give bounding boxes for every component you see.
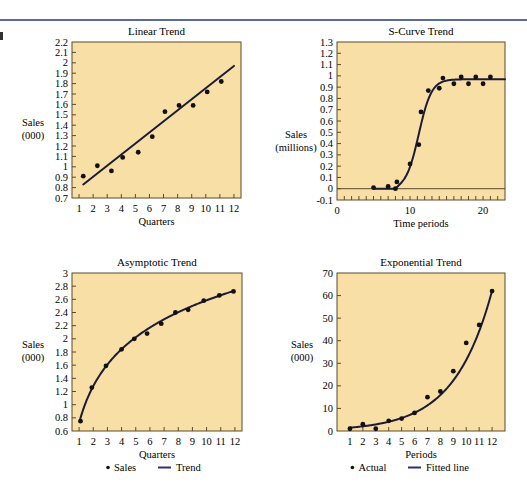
data-point bbox=[173, 310, 178, 315]
x-tick-label: 10 bbox=[201, 436, 212, 447]
y-tick-label: 1 bbox=[63, 161, 68, 172]
data-point bbox=[360, 422, 365, 427]
y-tick-label: 70 bbox=[323, 268, 334, 279]
y-tick-label: 1 bbox=[63, 399, 68, 410]
x-tick-label: 7 bbox=[425, 436, 430, 447]
data-point bbox=[441, 76, 446, 81]
y-tick-label: 1.9 bbox=[55, 68, 68, 79]
y-tick-label: 1 bbox=[328, 70, 333, 81]
y-tick-label: 50 bbox=[323, 313, 334, 324]
x-tick-label: 3 bbox=[105, 203, 110, 214]
x-tick-label: 12 bbox=[229, 203, 240, 214]
y-tick-label: 40 bbox=[323, 335, 334, 346]
data-point bbox=[437, 86, 442, 91]
x-tick-label: 0 bbox=[334, 205, 339, 216]
y-tick-label: 0.9 bbox=[320, 82, 333, 93]
x-tick-label: 12 bbox=[487, 436, 498, 447]
x-tick-label: 5 bbox=[133, 203, 138, 214]
x-tick-label: 2 bbox=[91, 436, 96, 447]
data-point bbox=[464, 341, 469, 346]
y-tick-label: 2 bbox=[63, 333, 68, 344]
data-point bbox=[473, 75, 478, 80]
y-axis-label: Sales bbox=[22, 117, 44, 128]
y-tick-label: 1.3 bbox=[55, 130, 68, 141]
data-point bbox=[119, 347, 124, 352]
y-tick-label: 1.4 bbox=[55, 120, 69, 131]
x-tick-label: 20 bbox=[478, 205, 489, 216]
x-tick-label: 5 bbox=[133, 436, 138, 447]
x-tick-label: 4 bbox=[386, 436, 392, 447]
x-tick-label: 2 bbox=[360, 436, 365, 447]
y-tick-label: 2.8 bbox=[55, 281, 68, 292]
y-tick-label: 2 bbox=[63, 57, 68, 68]
y-tick-label: 3 bbox=[63, 268, 68, 279]
x-tick-label: 11 bbox=[215, 203, 225, 214]
data-point bbox=[217, 293, 222, 298]
x-tick-label: 4 bbox=[119, 436, 125, 447]
data-point bbox=[416, 142, 421, 147]
x-tick-label: 9 bbox=[451, 436, 456, 447]
data-point bbox=[150, 134, 155, 139]
data-point bbox=[348, 426, 353, 431]
data-point bbox=[438, 389, 443, 394]
x-tick-label: 8 bbox=[176, 436, 181, 447]
y-tick-label: 1.8 bbox=[55, 78, 68, 89]
x-tick-label: 12 bbox=[230, 436, 241, 447]
y-tick-label: 0.7 bbox=[320, 104, 333, 115]
y-axis-label: (000) bbox=[291, 352, 314, 364]
legend-dot-icon bbox=[106, 466, 110, 470]
y-tick-label: 1.8 bbox=[55, 347, 68, 358]
data-point bbox=[201, 298, 206, 303]
y-tick-label: 0.6 bbox=[320, 116, 333, 127]
y-tick-label: 0 bbox=[328, 426, 333, 437]
chart-title: S-Curve Trend bbox=[388, 25, 454, 37]
legend-dot-icon bbox=[351, 466, 355, 470]
y-tick-label: 0.4 bbox=[320, 138, 334, 149]
y-tick-label: -0.1 bbox=[316, 195, 333, 206]
y-tick-label: 2.2 bbox=[55, 320, 68, 331]
y-tick-label: 0.7 bbox=[55, 193, 68, 204]
x-tick-label: 7 bbox=[161, 436, 166, 447]
x-tick-label: 10 bbox=[405, 205, 416, 216]
x-tick-label: 6 bbox=[147, 436, 152, 447]
data-point bbox=[386, 184, 391, 189]
data-point bbox=[95, 163, 100, 168]
x-tick-label: 9 bbox=[189, 203, 194, 214]
x-tick-label: 11 bbox=[474, 436, 484, 447]
y-tick-label: 20 bbox=[323, 380, 334, 391]
x-tick-label: 9 bbox=[190, 436, 195, 447]
data-point bbox=[81, 174, 86, 179]
trend-charts-figure: Linear Trend0.70.80.911.11.21.31.41.51.6… bbox=[0, 0, 527, 496]
x-tick-label: 2 bbox=[91, 203, 96, 214]
legend: SalesTrend bbox=[106, 462, 201, 473]
data-point bbox=[109, 169, 114, 174]
data-point bbox=[177, 103, 182, 108]
y-tick-label: 0.3 bbox=[320, 149, 333, 160]
data-point bbox=[120, 155, 125, 160]
data-point bbox=[408, 161, 413, 166]
y-axis-label: (000) bbox=[22, 130, 45, 142]
x-tick-label: 3 bbox=[105, 436, 110, 447]
y-tick-label: 1.2 bbox=[55, 386, 68, 397]
y-tick-label: 0.6 bbox=[55, 426, 68, 437]
x-tick-label: 6 bbox=[147, 203, 152, 214]
data-point bbox=[393, 186, 398, 191]
data-point bbox=[386, 418, 391, 423]
data-point bbox=[477, 323, 482, 328]
legend-label: Actual bbox=[358, 462, 386, 473]
y-tick-label: 1.6 bbox=[55, 360, 68, 371]
data-point bbox=[205, 90, 210, 95]
x-tick-label: 8 bbox=[438, 436, 443, 447]
legend-label: Sales bbox=[114, 462, 136, 473]
y-tick-label: 2.2 bbox=[55, 37, 68, 48]
data-point bbox=[399, 416, 404, 421]
y-axis-label: (000) bbox=[22, 352, 45, 364]
data-point bbox=[231, 289, 236, 294]
x-axis-label: Time periods bbox=[393, 218, 448, 229]
y-tick-label: 0.9 bbox=[55, 172, 68, 183]
data-point bbox=[490, 289, 495, 294]
exponential-chart: Exponential Trend01020304050607012345678… bbox=[291, 256, 505, 473]
data-point bbox=[132, 336, 137, 341]
x-axis-label: Quarters bbox=[138, 216, 174, 227]
data-point bbox=[89, 385, 94, 390]
